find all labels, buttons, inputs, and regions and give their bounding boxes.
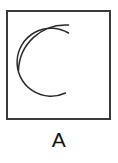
figure-container: A: [0, 0, 118, 163]
figure-caption-label: A: [52, 128, 67, 152]
figure-caption: A: [0, 126, 118, 163]
figure-drawing: [0, 0, 118, 126]
figure-panel: [0, 0, 118, 126]
bounding-box: [7, 11, 110, 119]
